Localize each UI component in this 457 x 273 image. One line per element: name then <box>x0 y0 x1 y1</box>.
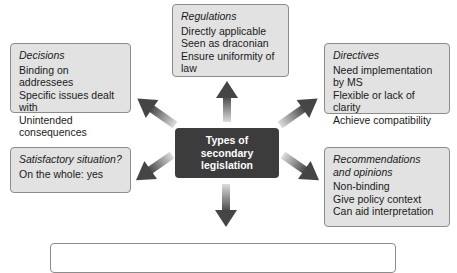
center-line: legislation <box>201 159 253 172</box>
recommendations-line: Give policy context <box>333 193 441 206</box>
recommendations-line: Can aid interpretation <box>333 205 441 218</box>
satisfactory-line: On the whole: yes <box>19 168 122 181</box>
directives-title: Directives <box>333 49 441 62</box>
recommendations-box: Recommendations and opinions Non-binding… <box>324 147 450 227</box>
recommendations-title-2: and opinions <box>333 166 441 179</box>
bottom-box <box>50 243 396 273</box>
satisfactory-title: Satisfactory situation? <box>19 153 122 166</box>
regulations-box: Regulations Directly applicable Seen as … <box>172 4 289 77</box>
arrow-down-left-icon <box>130 146 179 189</box>
regulations-line: Directly applicable <box>181 25 280 38</box>
decisions-title: Decisions <box>19 49 122 62</box>
regulations-line: Ensure uniformity of law <box>181 50 280 75</box>
recommendations-title: Recommendations <box>333 153 441 166</box>
decisions-line: Unintended consequences <box>19 114 122 139</box>
center-topic-box: Types of secondary legislation <box>175 128 279 178</box>
regulations-line: Seen as draconian <box>181 37 280 50</box>
regulations-title: Regulations <box>181 10 280 23</box>
arrow-down-icon <box>215 184 237 227</box>
decisions-box: Decisions Binding on addressees Specific… <box>10 43 131 113</box>
arrow-up-icon <box>216 81 238 122</box>
directives-box: Directives Need implementation by MS Fle… <box>324 43 450 114</box>
satisfactory-box: Satisfactory situation? On the whole: ye… <box>10 147 131 193</box>
arrow-up-left-icon <box>131 90 181 134</box>
recommendations-line: Non-binding <box>333 180 441 193</box>
arrow-down-right-icon <box>277 146 326 189</box>
decisions-line: Specific issues dealt with <box>19 89 122 114</box>
directives-line: Achieve compatibility <box>333 114 441 127</box>
center-line: secondary <box>201 147 254 160</box>
center-line: Types of <box>206 134 248 147</box>
decisions-line: Binding on addressees <box>19 64 122 89</box>
arrow-up-right-icon <box>274 90 324 134</box>
directives-line: Flexible or lack of clarity <box>333 89 441 114</box>
directives-line: Need implementation by MS <box>333 64 441 89</box>
